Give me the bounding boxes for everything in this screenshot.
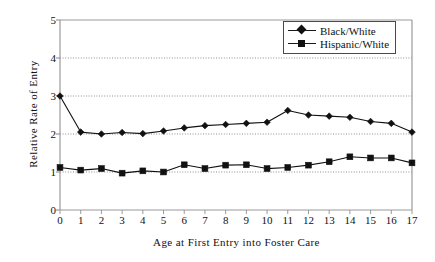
legend-item-black-white: Black/White [288, 24, 389, 37]
x-axis-title: Age at First Entry into Foster Care [60, 236, 413, 248]
diamond-marker-icon [288, 25, 316, 36]
x-tick-label-14: 14 [339, 214, 361, 226]
y-tick-label-1: 1 [36, 167, 56, 177]
series-hispanic-white [57, 154, 415, 176]
data-point-marker [285, 165, 291, 171]
data-point-marker [57, 165, 63, 171]
y-tick-label-5: 5 [36, 15, 56, 25]
x-tick-label-10: 10 [256, 214, 278, 226]
x-tick-label-9: 9 [235, 214, 257, 226]
x-tick-label-4: 4 [132, 214, 154, 226]
x-tick-label-7: 7 [194, 214, 216, 226]
square-marker-icon [288, 38, 316, 49]
data-point-marker [368, 155, 374, 161]
x-tick-label-13: 13 [318, 214, 340, 226]
data-point-marker [243, 120, 250, 127]
data-point-marker [57, 93, 64, 100]
data-point-marker [305, 112, 312, 119]
x-tick-label-0: 0 [49, 214, 71, 226]
x-tick-label-5: 5 [153, 214, 175, 226]
x-tick-label-17: 17 [401, 214, 423, 226]
x-tick-label-15: 15 [360, 214, 382, 226]
data-point-marker [388, 120, 395, 127]
x-tick-label-11: 11 [277, 214, 299, 226]
gridlines [60, 58, 412, 172]
legend-label-hispanic-white: Hispanic/White [320, 38, 389, 50]
data-point-marker [409, 129, 416, 136]
data-point-marker [326, 159, 332, 165]
data-point-marker [119, 129, 126, 136]
legend-item-hispanic-white: Hispanic/White [288, 37, 389, 50]
data-point-marker [367, 118, 374, 125]
series-line [60, 157, 412, 173]
data-point-marker [347, 114, 354, 121]
y-tick-label-3: 3 [36, 91, 56, 101]
data-point-marker [284, 107, 291, 114]
data-point-marker [140, 130, 147, 137]
data-point-marker [78, 167, 84, 173]
data-point-marker [306, 162, 312, 168]
chart-legend: Black/White Hispanic/White [283, 21, 396, 54]
data-series-group [57, 93, 416, 176]
x-tick-label-12: 12 [297, 214, 319, 226]
x-tick-label-2: 2 [90, 214, 112, 226]
data-point-marker [223, 162, 229, 168]
data-point-marker [119, 170, 125, 176]
x-tick-label-16: 16 [380, 214, 402, 226]
data-point-marker [160, 128, 167, 135]
data-point-marker [222, 121, 229, 128]
x-tick-label-3: 3 [111, 214, 133, 226]
data-point-marker [347, 154, 353, 160]
chart-figure: Relative Rate of Entry 5 4 3 2 1 0 01234… [0, 0, 435, 262]
data-point-marker [326, 113, 333, 120]
data-point-marker [202, 166, 208, 172]
data-point-marker [181, 162, 187, 168]
series-line [60, 96, 412, 134]
data-point-marker [264, 119, 271, 126]
data-point-marker [202, 122, 209, 129]
data-point-marker [99, 166, 105, 172]
legend-label-black-white: Black/White [320, 25, 376, 37]
data-point-marker [181, 125, 188, 132]
data-point-marker [264, 166, 270, 172]
data-point-marker [161, 169, 167, 175]
series-black-white [57, 93, 416, 138]
y-tick-label-4: 4 [36, 53, 56, 63]
data-point-marker [409, 160, 415, 166]
x-tick-label-1: 1 [70, 214, 92, 226]
data-point-marker [140, 168, 146, 174]
data-point-marker [243, 162, 249, 168]
data-point-marker [98, 131, 105, 138]
x-tick-label-6: 6 [173, 214, 195, 226]
data-point-marker [388, 155, 394, 161]
x-tick-label-8: 8 [215, 214, 237, 226]
y-tick-label-2: 2 [36, 129, 56, 139]
